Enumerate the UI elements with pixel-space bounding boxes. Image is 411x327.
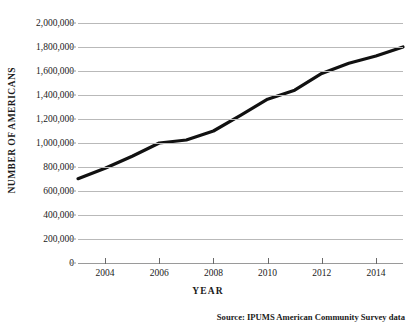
y-axis-tick-label: 1,400,000 — [8, 90, 74, 100]
y-axis-tick-mark — [69, 47, 76, 48]
y-axis-tick-mark — [69, 167, 76, 168]
x-axis-tick-mark — [322, 258, 323, 264]
x-axis-tick-labels: 200420062008201020122014 — [78, 268, 403, 282]
y-axis-tick-label: 600,000 — [8, 186, 74, 196]
x-axis-title: YEAR — [78, 286, 338, 296]
chart-figure: NUMBER OF AMERICANS 0200,000400,000600,0… — [0, 0, 411, 327]
gridline — [78, 95, 403, 96]
y-axis-tick-mark — [69, 23, 76, 24]
y-axis-tick-mark — [69, 143, 76, 144]
y-axis-tick-mark — [69, 71, 76, 72]
y-axis-tick-mark — [69, 239, 76, 240]
y-axis-tick-mark — [69, 95, 76, 96]
y-axis-tick-label: 1,000,000 — [8, 138, 74, 148]
series-number-of-americans — [78, 47, 403, 179]
gridline — [78, 191, 403, 192]
y-axis-tick-marks — [69, 23, 78, 263]
gridline — [78, 71, 403, 72]
x-axis-tick-label: 2006 — [150, 268, 169, 278]
gridline — [78, 119, 403, 120]
source-caption: Source: IPUMS American Community Survey … — [0, 312, 405, 322]
y-axis-tick-label: 1,600,000 — [8, 66, 74, 76]
y-axis-tick-mark — [69, 119, 76, 120]
x-axis-tick-mark — [213, 258, 214, 264]
x-axis-tick-label: 2008 — [204, 268, 223, 278]
y-axis-tick-label: 1,200,000 — [8, 114, 74, 124]
y-axis-tick-label: 800,000 — [8, 162, 74, 172]
gridline — [78, 215, 403, 216]
y-axis-tick-label: 200,000 — [8, 234, 74, 244]
x-axis-tick-label: 2014 — [366, 268, 385, 278]
y-axis-tick-label: 0 — [8, 258, 74, 268]
x-axis-tick-label: 2012 — [312, 268, 331, 278]
x-axis-tick-mark — [268, 258, 269, 264]
y-axis-tick-label: 2,000,000 — [8, 18, 74, 28]
x-axis-tick-mark — [159, 258, 160, 264]
plot-area — [78, 23, 403, 263]
y-axis-tick-mark — [69, 263, 76, 264]
y-axis-tick-label: 1,800,000 — [8, 42, 74, 52]
x-axis-tick-mark — [105, 258, 106, 264]
y-axis-tick-mark — [69, 191, 76, 192]
gridline — [78, 47, 403, 48]
y-axis-tick-mark — [69, 215, 76, 216]
y-axis-tick-labels: 0200,000400,000600,000800,0001,000,0001,… — [0, 23, 74, 263]
x-axis-tick-label: 2010 — [258, 268, 277, 278]
y-axis-tick-label: 400,000 — [8, 210, 74, 220]
x-axis-tick-marks — [78, 258, 403, 265]
gridline — [78, 239, 403, 240]
gridline — [78, 143, 403, 144]
gridline — [78, 23, 403, 24]
gridline — [78, 167, 403, 168]
x-axis-tick-label: 2004 — [96, 268, 115, 278]
x-axis-tick-mark — [376, 258, 377, 264]
